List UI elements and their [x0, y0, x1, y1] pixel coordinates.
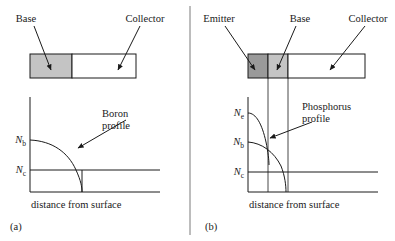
phosphorus-annotation-line1: Phosphorus [302, 101, 351, 112]
boron-annotation-line1: Boron [102, 108, 129, 119]
nb-tick-label: Nb [232, 136, 244, 150]
ne-tick-label: Ne [233, 107, 245, 121]
collector-label: Collector [125, 13, 165, 24]
boron-annotation-line2: profile [102, 120, 130, 131]
emitter-pointer-arrow [225, 26, 255, 70]
figure-root: Base Collector Nb Nc Boron profile dista… [0, 0, 395, 241]
base-label: Base [16, 13, 37, 24]
x-axis-label: distance from surface [31, 199, 122, 210]
phosphorus-annotation-arrow [270, 122, 312, 138]
base-region [30, 54, 72, 78]
nb-tick-label: Nb [14, 134, 26, 148]
base-label: Base [290, 13, 311, 24]
panel-caption-b: (b) [205, 221, 218, 233]
panel-b-device-bar [248, 54, 365, 78]
boron-base-profile-curve [248, 142, 286, 192]
nc-tick-label: Nc [233, 166, 245, 180]
panel-caption-a: (a) [10, 221, 22, 233]
emitter-region [248, 54, 268, 78]
collector-region [288, 54, 365, 78]
phosphorus-profile-curve [248, 113, 269, 165]
nc-tick-label: Nc [15, 164, 27, 178]
panel-b: Emitter Base Collector Ne Nb Nc Phosphor… [203, 13, 388, 233]
collector-label: Collector [348, 13, 388, 24]
figure-canvas: Base Collector Nb Nc Boron profile dista… [0, 0, 395, 241]
x-axis-label: distance from surface [249, 199, 340, 210]
phosphorus-annotation-line2: profile [302, 113, 330, 124]
emitter-label: Emitter [203, 13, 235, 24]
panel-a: Base Collector Nb Nc Boron profile dista… [10, 13, 165, 233]
collector-region [72, 54, 136, 78]
base-region [268, 54, 288, 78]
boron-profile-curve [30, 140, 82, 192]
